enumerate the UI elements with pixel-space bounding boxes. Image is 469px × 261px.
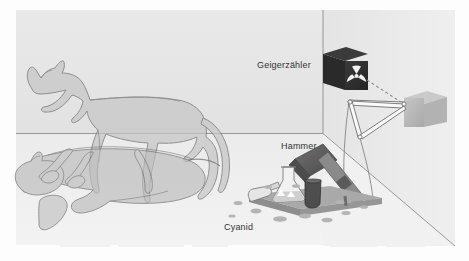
label-hammer: Hammer [281,141,317,151]
puddle [299,214,311,219]
puddle [360,205,368,209]
puddle [251,209,262,214]
relay-box-front-face [404,98,424,127]
label-cyanid: Cyanid [224,222,253,232]
linkage-pivot-right [402,102,406,106]
relay-box [404,91,447,127]
figure-canvas: Geigerzähler Hammer Cyanid [0,0,469,261]
puddle [229,214,236,217]
vial-dark [305,180,321,208]
puddle [234,201,243,205]
puddle [273,216,287,222]
puddle [342,211,351,215]
puddle [336,200,345,204]
vial-dark-rim [305,179,321,183]
puddle [292,184,300,188]
puddle [264,185,272,189]
label-geiger-counter: Geigerzähler [257,60,311,70]
puddle [322,218,333,223]
